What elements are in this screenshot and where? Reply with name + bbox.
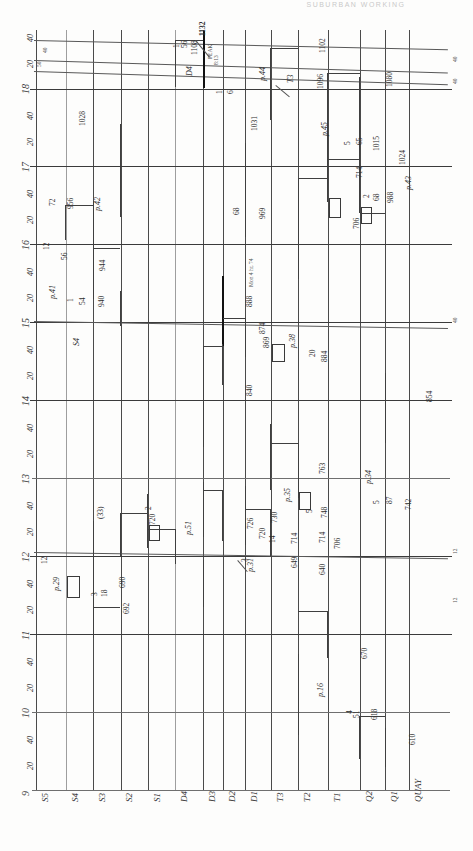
hour-gridline-major — [30, 400, 452, 401]
hour-gridline-13 — [32, 478, 450, 479]
time-label-minute: 20 — [26, 216, 35, 224]
train-path — [120, 291, 121, 326]
page-ref-51: p.51 — [184, 521, 193, 535]
station-label-d1: D1 — [249, 791, 259, 802]
edge-tick-12b: 12 — [452, 598, 458, 604]
station-label-d2: D2 — [227, 791, 237, 802]
train-number-988: 988 — [386, 192, 395, 203]
train-number-763: 763 — [318, 463, 327, 474]
train-number-649: 649 — [290, 556, 299, 567]
edge-tick-40d: 40 — [452, 317, 458, 323]
cell-number-65: 65 — [355, 138, 364, 146]
train-number-640: 640 — [318, 564, 327, 575]
station-label-d3: D3 — [207, 791, 217, 802]
train-path-connector — [298, 178, 328, 179]
time-label-minute: 40 — [26, 190, 35, 198]
time-label-minute: 20 — [26, 606, 35, 614]
cell-number-1b: 1 — [66, 299, 75, 303]
dwell-box — [272, 344, 285, 362]
time-label-minute: 40 — [26, 502, 35, 510]
train-number-956: 956 — [66, 198, 75, 209]
train-path-connector — [245, 509, 270, 510]
station-gridline-s3 — [93, 30, 94, 790]
train-number-730: 730 — [270, 512, 279, 523]
time-label-minute: 40 — [26, 34, 35, 42]
station-gridline-t3 — [271, 30, 272, 790]
drawing-sheet: SUBURBAN WORKING 92040102040112040122040… — [0, 0, 473, 851]
time-label-minute: 20 — [26, 684, 35, 692]
leader-line-p44 — [275, 85, 290, 97]
train-number-742: 714 — [355, 167, 364, 178]
cell-number-55: 56 — [60, 253, 69, 261]
cell-number-12: 12 — [42, 243, 51, 251]
time-label-minute: 40 — [26, 346, 35, 354]
dwell-box — [361, 207, 372, 224]
cell-number-51: 51 — [352, 710, 361, 718]
train-path — [385, 728, 386, 767]
time-label-minute: 20 — [26, 294, 35, 302]
train-number-1015: 1015 — [372, 136, 381, 151]
cell-number-3b: 3 — [240, 558, 249, 562]
train-number-747: 742 — [404, 499, 413, 510]
train-path — [175, 529, 176, 564]
station-label-s4: S4 — [70, 793, 80, 802]
train-number-1102: 1102 — [318, 38, 327, 53]
hour-gridline-9 — [32, 790, 450, 791]
train-number-618: 618 — [370, 709, 379, 720]
train-number-869: 869 — [262, 336, 271, 347]
page-ref-35: p.35 — [283, 488, 292, 502]
time-label-minute: 20 — [26, 450, 35, 458]
train-path — [203, 560, 204, 607]
train-path — [93, 607, 94, 638]
cell-number-20: 20 — [308, 350, 317, 358]
cell-number-1c: 1 — [215, 91, 224, 95]
train-number-940: 940 — [97, 296, 106, 307]
train-path — [222, 490, 223, 541]
train-path — [270, 48, 271, 65]
page-ref-42: p.42 — [93, 197, 102, 211]
time-label-minute: 40 — [26, 112, 35, 120]
train-number-888: 888 — [245, 296, 254, 307]
cell-number-14: 14 — [268, 535, 277, 543]
station-gridline-d2 — [223, 30, 224, 790]
page-header: SUBURBAN WORKING — [286, 1, 426, 11]
station-label-quay: QUAY — [413, 779, 423, 802]
train-path-connector — [328, 159, 360, 160]
train-number-692: 692 — [122, 603, 131, 614]
train-path-connector — [93, 248, 120, 249]
train-number-706: 714 — [290, 533, 299, 544]
train-number-714b: 714 — [318, 531, 327, 542]
station-label-t1: T1 — [332, 792, 342, 802]
train-number-748: 748 — [320, 506, 329, 517]
train-number-670: 670 — [360, 648, 369, 659]
note-headway: Mon 4 hr, 74 — [248, 258, 254, 287]
train-number-969: 969 — [258, 208, 267, 219]
time-label-minute: 20 — [26, 138, 35, 146]
train-number-840: 840 — [245, 385, 254, 396]
cell-number-5c: 5 — [372, 500, 381, 504]
train-path-connector — [93, 607, 120, 608]
station-label-t3: T3 — [275, 792, 285, 802]
page-ref-16: p.16 — [316, 683, 325, 697]
cell-number-18: 18 — [100, 590, 109, 598]
station-ref-t3: T3 — [286, 74, 295, 82]
time-label-hour-11: 11 — [20, 631, 31, 640]
train-number-1132: 1132 — [198, 21, 207, 36]
station-gridline-s4 — [66, 30, 67, 790]
edge-tick-40c: 40 — [452, 79, 458, 85]
train-path — [245, 201, 246, 236]
cell-number-6: 6 — [226, 91, 235, 95]
train-path — [245, 143, 246, 202]
time-label-hour-16: 16 — [20, 240, 31, 250]
page-ref-43: p.43 — [404, 176, 413, 190]
train-path — [93, 248, 94, 299]
time-label-minute: 40 — [26, 580, 35, 588]
cell-number-1: 1 — [172, 44, 181, 48]
edge-tick-40b: 40 — [452, 57, 458, 63]
train-path-connector — [203, 346, 222, 347]
dwell-box — [329, 198, 341, 218]
time-label-hour-15: 15 — [20, 318, 31, 328]
hour-gridline-major — [30, 166, 452, 167]
train-path — [327, 159, 328, 202]
train-path — [65, 205, 66, 240]
